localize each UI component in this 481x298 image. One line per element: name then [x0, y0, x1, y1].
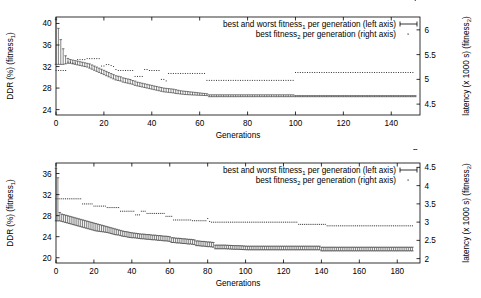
data-point	[376, 225, 377, 226]
data-point	[59, 198, 60, 199]
data-point	[184, 219, 185, 220]
data-point	[61, 198, 62, 199]
data-point	[63, 198, 64, 199]
data-point	[346, 225, 347, 226]
data-point	[150, 213, 151, 214]
data-point	[67, 198, 68, 199]
x-tick-label: 100	[239, 267, 253, 276]
data-point	[103, 206, 104, 207]
series-best-fitness2	[56, 0, 416, 81]
data-point	[341, 72, 342, 73]
data-point	[200, 220, 201, 221]
data-point	[132, 70, 133, 71]
data-point	[327, 225, 328, 226]
data-point	[266, 222, 267, 223]
data-point	[410, 225, 411, 226]
data-point	[336, 225, 337, 226]
data-point	[145, 211, 146, 212]
x-tick-label: 20	[99, 119, 109, 128]
data-point	[69, 198, 70, 199]
data-point	[262, 222, 263, 223]
data-point	[216, 80, 217, 81]
data-point	[378, 225, 379, 226]
data-point	[86, 203, 87, 204]
data-point	[364, 72, 365, 73]
data-point	[279, 222, 280, 223]
data-point	[139, 214, 140, 215]
x-tick-label: 60	[165, 267, 175, 276]
data-point	[405, 72, 406, 73]
data-point	[84, 59, 85, 60]
data-point	[238, 222, 239, 223]
data-point	[285, 222, 286, 223]
data-point	[75, 198, 76, 199]
y-tick-label: 24	[42, 106, 52, 115]
x-tick-label: 180	[390, 267, 404, 276]
data-point	[80, 198, 81, 199]
data-point	[340, 225, 341, 226]
data-point	[343, 72, 344, 73]
data-point	[350, 72, 351, 73]
data-point	[109, 207, 110, 208]
data-point	[399, 225, 400, 226]
y2-tick-label: 4.5	[425, 100, 437, 109]
data-point	[294, 222, 295, 223]
data-point	[213, 222, 214, 223]
data-point	[71, 198, 72, 199]
data-point	[170, 73, 171, 74]
data-point	[307, 72, 308, 73]
data-point	[344, 225, 345, 226]
data-point	[56, 70, 57, 71]
data-point	[135, 76, 136, 77]
data-point	[144, 69, 145, 70]
chart-panel-top: 02040608010012014024283236404.555.56Gene…	[0, 0, 481, 149]
data-point	[160, 213, 161, 214]
data-point	[137, 214, 138, 215]
data-point	[222, 222, 223, 223]
data-point	[355, 72, 356, 73]
data-point	[72, 63, 73, 64]
data-point	[319, 224, 320, 225]
y-tick-label: 20	[42, 254, 52, 263]
data-point	[351, 225, 352, 226]
data-point	[159, 70, 160, 71]
data-point	[175, 73, 176, 74]
data-point	[125, 70, 126, 71]
legend-marker-dot	[408, 180, 409, 181]
data-point	[202, 73, 203, 74]
data-point	[401, 225, 402, 226]
y-axis-label: DDR (%) (fitness1)	[6, 179, 16, 247]
y-tick-label: 36	[42, 41, 52, 50]
y-tick-label: 32	[42, 63, 52, 72]
legend: best and worst fitness1 per generation (…	[223, 20, 417, 40]
data-point	[363, 225, 364, 226]
data-point	[194, 220, 195, 221]
data-point	[57, 198, 58, 199]
data-point	[380, 225, 381, 226]
data-point	[273, 80, 274, 81]
data-point	[232, 222, 233, 223]
data-point	[288, 80, 289, 81]
data-point	[182, 73, 183, 74]
data-point	[139, 76, 140, 77]
data-point	[133, 211, 134, 212]
data-point	[329, 72, 330, 73]
figure-two-panel-convergence-plots: 02040608010012014024283236404.555.56Gene…	[0, 0, 481, 298]
data-point	[190, 219, 191, 220]
data-point	[116, 207, 117, 208]
data-point	[230, 222, 231, 223]
data-point	[114, 207, 115, 208]
data-point	[73, 198, 74, 199]
data-point	[287, 222, 288, 223]
data-point	[349, 225, 350, 226]
data-point	[259, 80, 260, 81]
data-point	[194, 73, 195, 74]
data-point	[207, 218, 208, 219]
y-tick-label: 32	[42, 191, 52, 200]
legend-label-fitness2: best fitness2 per generation (right axis…	[256, 176, 396, 186]
data-point	[60, 70, 61, 71]
data-point	[297, 72, 298, 73]
data-point	[84, 203, 85, 204]
data-point	[393, 72, 394, 73]
data-point	[323, 224, 324, 225]
